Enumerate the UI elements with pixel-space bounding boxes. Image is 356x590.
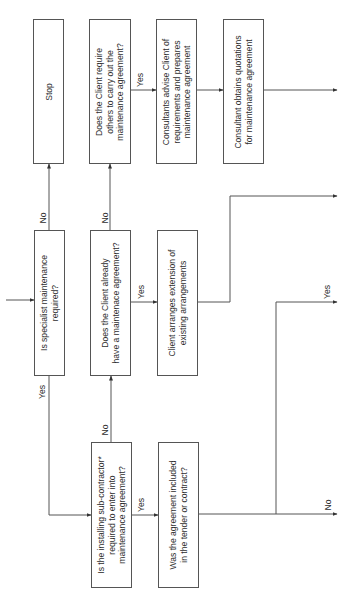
label-already-yes: Yes <box>136 285 146 299</box>
node-installing-sub-text: Is the installing sub-contractor* requir… <box>96 456 128 574</box>
label-specialist-yes: Yes <box>37 385 47 399</box>
label-require-yes: Yes <box>135 73 145 87</box>
node-require-others: Does the Client require others to carry … <box>89 19 131 164</box>
node-specialist: Is specialist maintenance required? <box>34 230 65 376</box>
node-specialist-text: Is specialist maintenance required? <box>39 255 60 351</box>
node-agreement-included-text: Was the agreement included in the tender… <box>168 460 189 569</box>
label-included-yes: Yes <box>322 285 332 299</box>
node-installing-sub: Is the installing sub-contractor* requir… <box>91 442 132 588</box>
node-client-arranges-text: Client arranges extension of existing ar… <box>167 249 188 356</box>
node-consultant-obtains: Consultant obtains quotations for mainte… <box>223 19 264 164</box>
node-consultant-obtains-text: Consultant obtains quotations for mainte… <box>233 35 254 148</box>
label-included-no: No <box>323 500 333 511</box>
node-agreement-included: Was the agreement included in the tender… <box>158 442 199 588</box>
label-installing-yes: Yes <box>136 498 146 512</box>
node-already-has: Does the Client already have a maintenac… <box>90 230 131 376</box>
label-specialist-no: No <box>38 213 48 224</box>
label-already-no: No <box>100 213 110 224</box>
node-consultants-advise: Consultants advise Client of requirement… <box>156 19 197 164</box>
node-require-others-text: Does the Client require others to carry … <box>94 43 126 140</box>
node-stop-text: Stop <box>43 83 54 101</box>
label-installing-no: No <box>100 425 110 436</box>
node-stop: Stop <box>33 19 64 164</box>
node-consultants-advise-text: Consultants advise Client of requirement… <box>161 38 193 145</box>
node-client-arranges: Client arranges extension of existing ar… <box>157 230 198 376</box>
node-already-has-text: Does the Client already have a maintenac… <box>100 243 121 364</box>
